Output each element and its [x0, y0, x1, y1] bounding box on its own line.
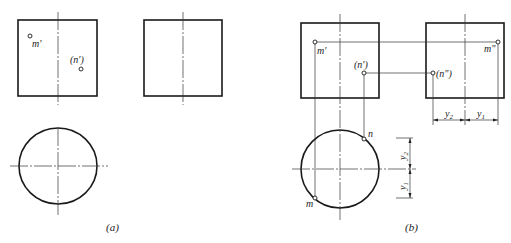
label-n-prime-a: (n'): [70, 54, 84, 66]
dim-label-y2-vertical: y2: [397, 152, 410, 161]
point-n-b: [362, 137, 366, 141]
label-m-b: m: [306, 198, 313, 209]
arrow-icon: [433, 119, 438, 122]
arrow-icon: [409, 169, 412, 174]
dim-label-y1-horizontal: y1: [476, 108, 485, 121]
point-n-prime-b: [362, 71, 366, 75]
point-n-prime-a: [79, 67, 83, 71]
caption-a: (a): [106, 221, 119, 234]
arrow-icon: [493, 119, 498, 122]
point-m-b: [313, 196, 317, 200]
point-m-prime-b: [313, 40, 317, 44]
arrow-icon: [409, 193, 412, 198]
front-view-a: [18, 20, 97, 96]
label-m-double-prime: m": [484, 43, 496, 54]
dim-label-y1-vertical: y1: [397, 182, 410, 191]
label-n-double-prime: (n"): [436, 68, 453, 80]
label-m-prime-b: m': [317, 45, 327, 56]
projection-diagram: m' (n') (a) m' (n') m" (: [0, 0, 511, 243]
panel-b: m' (n') m" (n") y2 y1 n m y2 y1 (b): [292, 14, 504, 234]
dim-label-y2-horizontal: y2: [444, 108, 453, 121]
arrow-icon: [465, 119, 470, 122]
label-m-prime-a: m': [32, 38, 42, 49]
point-n-double-prime: [431, 71, 435, 75]
arrow-icon: [460, 119, 465, 122]
point-m-double-prime: [496, 40, 500, 44]
arrow-icon: [409, 164, 412, 169]
label-n-b: n: [368, 128, 373, 139]
caption-b: (b): [405, 221, 418, 234]
label-n-prime-b: (n'): [354, 59, 368, 71]
panel-a: m' (n') (a): [10, 12, 222, 234]
arrow-icon: [409, 138, 412, 143]
